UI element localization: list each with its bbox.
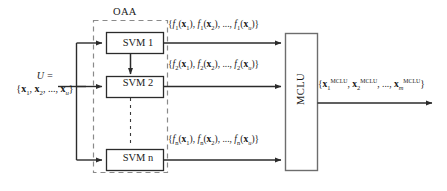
svm-1-label: SVM 1 [110, 34, 166, 52]
svm-2-label: SVM 2 [110, 74, 166, 92]
svm-1-output-set-label: {f1(x1), f1(x2), ..., f1(xu)} [168, 19, 259, 30]
svm-n-output-set-label: {fn(x1), fn(x2), ..., fn(xu)} [168, 134, 259, 145]
block-diagram: OAA U = {x1, x2, ..., xu} SVM 1 SVM 2 SV… [0, 0, 447, 191]
svm-n-label: SVM n [110, 149, 166, 167]
mclu-label: MCLU [295, 59, 307, 119]
svm-2-output-set-label: {f2(x1), f2(x2), ..., f2(xu)} [168, 59, 259, 70]
input-label: U = {x1, x2, ..., xu} [6, 70, 84, 94]
input-set: {x1, x2, ..., xu} [6, 83, 84, 95]
output-set-label: {x1MCLU, x2MCLU, ..., xmMCLU} [318, 79, 425, 90]
oaa-group-label: OAA [113, 6, 137, 18]
input-name: U = [6, 70, 84, 82]
